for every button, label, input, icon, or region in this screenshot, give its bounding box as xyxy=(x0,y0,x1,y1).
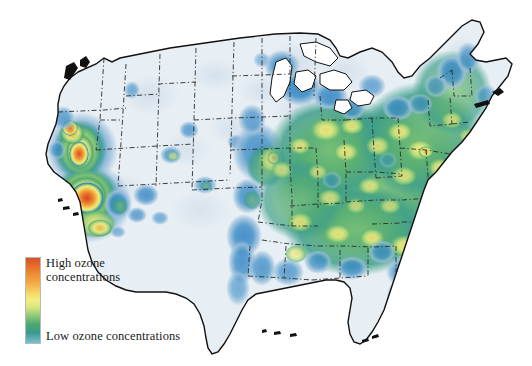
legend-color-bar xyxy=(25,257,41,344)
legend-high-label-line1: High ozone xyxy=(46,256,120,270)
legend-high-label: High ozone concentrations xyxy=(46,256,120,284)
legend-high-label-line2: concentrations xyxy=(46,270,120,284)
ozone-map-figure: High ozone concentrations Low ozone conc… xyxy=(0,0,532,366)
legend-low-label: Low ozone concentrations xyxy=(46,329,180,343)
color-legend: High ozone concentrations Low ozone conc… xyxy=(25,257,190,353)
legend-gradient-swatch xyxy=(26,258,40,343)
